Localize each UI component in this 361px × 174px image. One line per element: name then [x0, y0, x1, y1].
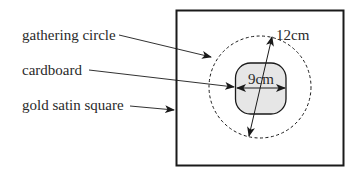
label-outer-dimension: 12cm	[276, 28, 309, 43]
label-gold-satin-square: gold satin square	[22, 98, 124, 113]
label-cardboard: cardboard	[22, 63, 82, 78]
leader-cardboard	[89, 70, 234, 87]
leader-gathering-circle	[119, 35, 211, 57]
diagram-canvas: gathering circle cardboard gold satin sq…	[0, 0, 361, 174]
label-inner-dimension: 9cm	[248, 72, 274, 87]
leader-gold-satin-square	[130, 106, 174, 110]
label-gathering-circle: gathering circle	[22, 28, 116, 43]
